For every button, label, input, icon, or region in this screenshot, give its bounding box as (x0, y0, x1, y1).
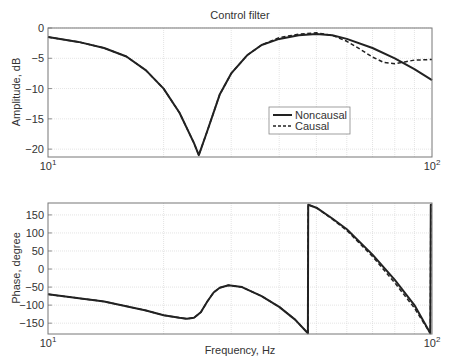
legend: Noncausal Causal (269, 107, 350, 134)
amplitude-series (48, 33, 432, 155)
y-tick-label: −50 (25, 281, 44, 293)
y-tick-label: 0 (38, 263, 44, 275)
amplitude-grid (48, 28, 432, 157)
phase-axes: 150100500−50−100−150101102 Phase, degree… (10, 203, 441, 356)
phase-y-label: Phase, degree (10, 232, 22, 304)
phase-x-label: Frequency, Hz (205, 344, 276, 356)
series-noncausal (48, 34, 432, 155)
y-tick-label: −150 (19, 317, 44, 329)
figure: Control filter 0−5−10−15−20101102 Amplit… (0, 0, 449, 361)
y-tick-label: −5 (31, 52, 44, 64)
x-tick-label: 101 (40, 335, 57, 349)
amplitude-axes: 0−5−10−15−20101102 Amplitude, dB Noncaus… (10, 22, 441, 172)
x-tick-label: 101 (40, 158, 57, 172)
phase-grid (48, 203, 432, 334)
chart-title: Control filter (210, 9, 270, 21)
x-tick-label: 102 (424, 158, 441, 172)
y-tick-label: −100 (19, 299, 44, 311)
y-tick-label: 50 (32, 245, 44, 257)
y-tick-label: 0 (38, 22, 44, 34)
x-tick-label: 102 (424, 335, 441, 349)
amplitude-y-label: Amplitude, dB (10, 58, 22, 126)
phase-tick-labels: 150100500−50−100−150101102 (19, 209, 441, 349)
series-causal (48, 33, 432, 155)
y-tick-label: −10 (25, 83, 44, 95)
y-tick-label: −20 (25, 143, 44, 155)
y-tick-label: −15 (25, 113, 44, 125)
y-tick-label: 150 (26, 209, 44, 221)
legend-causal-label: Causal (295, 120, 329, 132)
amplitude-axes-box (48, 28, 432, 157)
y-tick-label: 100 (26, 227, 44, 239)
phase-axes-box (48, 203, 432, 334)
